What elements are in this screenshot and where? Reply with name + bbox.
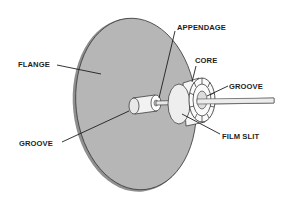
label-flange: FLANGE — [18, 60, 50, 69]
label-groove-core: GROOVE — [229, 82, 263, 91]
film-reel-diagram: FLANGE APPENDAGE CORE GROOVE GROOVE FILM… — [0, 0, 285, 201]
label-core: CORE — [195, 56, 217, 65]
label-appendage: APPENDAGE — [177, 23, 226, 32]
label-groove-hub: GROOVE — [19, 139, 53, 148]
label-film-slit: FILM SLIT — [222, 132, 259, 141]
